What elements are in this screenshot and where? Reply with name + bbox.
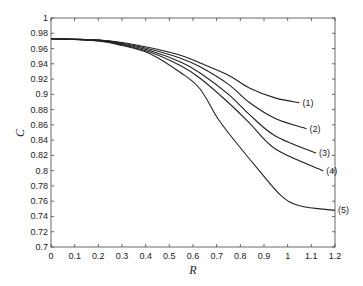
y-tick-label: 0.7: [35, 242, 48, 252]
x-tick-label: 1: [285, 251, 290, 261]
plot-frame: [51, 18, 335, 247]
y-tick-label: 0.8: [35, 166, 48, 176]
y-tick-label: 0.72: [30, 227, 48, 237]
x-tick-label: 0.2: [92, 251, 105, 261]
y-axis-label: C: [13, 128, 27, 137]
x-tick-label: 1.1: [305, 251, 318, 261]
axes: 00.10.20.30.40.50.60.70.80.911.11.20.70.…: [30, 13, 341, 261]
y-tick-label: 0.9: [35, 89, 48, 99]
curve-1: [51, 39, 300, 103]
x-tick-label: 0.7: [210, 251, 223, 261]
y-tick-label: 0.94: [30, 59, 48, 69]
curve-2: [51, 39, 307, 129]
y-tick-label: 0.88: [30, 105, 48, 115]
y-tick-label: 0.98: [30, 28, 48, 38]
curve-4: [51, 39, 323, 171]
x-axis-label: R: [188, 263, 197, 277]
x-tick-label: 0.5: [163, 251, 176, 261]
y-tick-label: 0.76: [30, 196, 48, 206]
y-tick-label: 0.86: [30, 120, 48, 130]
x-tick-label: 1.2: [329, 251, 342, 261]
y-tick-label: 1: [43, 13, 48, 23]
curve-label-2: (2): [310, 124, 321, 134]
y-tick-label: 0.92: [30, 74, 48, 84]
y-tick-label: 0.74: [30, 211, 48, 221]
x-tick-label: 0.4: [139, 251, 152, 261]
curve-label-4: (4): [326, 166, 337, 176]
series-group: [51, 39, 335, 211]
curve-labels: (1)(2)(3)(4)(5): [303, 98, 350, 216]
curve-label-5: (5): [338, 205, 349, 215]
y-tick-label: 0.96: [30, 44, 48, 54]
curve-label-1: (1): [303, 98, 314, 108]
chart-container: 00.10.20.30.40.50.60.70.80.911.11.20.70.…: [0, 0, 363, 286]
curve-label-3: (3): [319, 148, 330, 158]
x-tick-label: 0.9: [258, 251, 271, 261]
x-tick-label: 0.3: [116, 251, 129, 261]
y-tick-label: 0.82: [30, 150, 48, 160]
x-tick-label: 0.6: [187, 251, 200, 261]
y-tick-label: 0.78: [30, 181, 48, 191]
line-chart: 00.10.20.30.40.50.60.70.80.911.11.20.70.…: [0, 0, 363, 286]
x-tick-label: 0: [48, 251, 53, 261]
x-tick-label: 0.8: [234, 251, 247, 261]
x-tick-label: 0.1: [68, 251, 81, 261]
y-tick-label: 0.84: [30, 135, 48, 145]
